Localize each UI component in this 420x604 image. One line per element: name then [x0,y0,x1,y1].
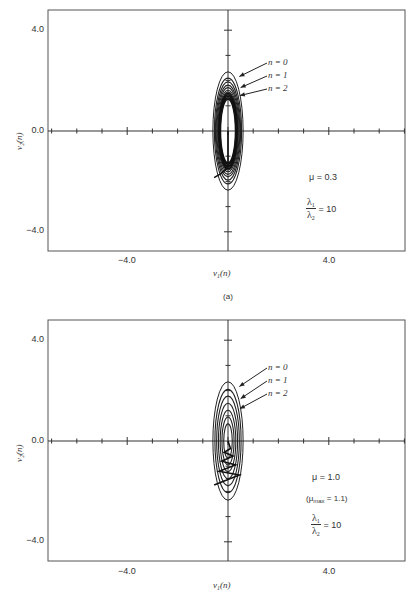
contour-label-n2: n = 2 [268,83,288,93]
contour-label-n2: n = 2 [268,388,288,398]
plot-area-b [0,300,420,604]
plot-area-a [0,0,420,300]
y-axis-label: ν₂(n) [14,444,24,462]
y-tick-label-4: 4.0 [14,334,44,344]
mu-max-annotation: (μmax = 1.1) [306,494,348,504]
y-tick-label-neg4: −4.0 [14,535,44,545]
contour-label-n1: n = 1 [268,70,288,80]
y-tick-label-4: 4.0 [14,24,44,34]
mu-annotation: μ = 1.0 [312,472,340,482]
contour-label-n1: n = 1 [268,375,288,385]
mu-annotation: μ = 0.3 [309,172,337,182]
y-axis-label: ν₂(n) [14,132,24,150]
x-axis-label: ν1(n) [213,268,231,279]
chart-panel-a: 4.0 0.0 −4.0 −4.0 4.0 ν1(n) ν₂(n) n = 0 … [0,0,420,300]
arrowhead-icon [239,382,244,387]
x-axis-label: ν1(n) [213,580,231,591]
x-tick-label-4: 4.0 [309,255,349,265]
x-tick-label-neg4: −4.0 [107,255,147,265]
eigenvalue-ratio-annotation: λ1λ2 = 10 [306,196,336,221]
arrowhead-icon [241,394,246,399]
eigenvalue-ratio-annotation: λ1λ2 = 10 [311,512,341,537]
x-tick-label-4: 4.0 [309,566,349,576]
chart-panel-b: 4.0 0.0 −4.0 −4.0 4.0 ν1(n) ν₂(n) n = 0 … [0,300,420,604]
contour-label-n0: n = 0 [268,362,288,372]
y-tick-label-neg4: −4.0 [14,225,44,235]
x-tick-label-neg4: −4.0 [107,566,147,576]
contour-label-n0: n = 0 [268,57,288,67]
